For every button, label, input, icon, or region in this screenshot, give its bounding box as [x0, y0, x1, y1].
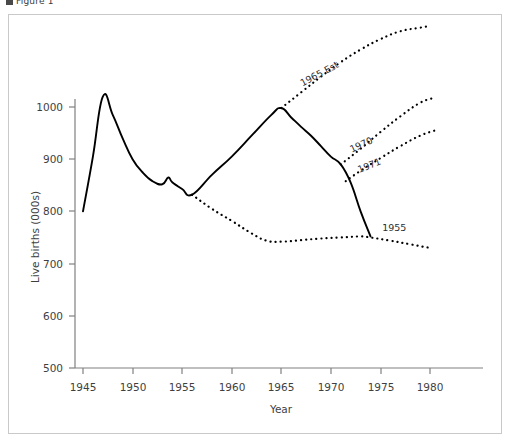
x-axis-title: Year	[269, 403, 293, 415]
y-tick-label: 1000	[36, 101, 63, 113]
x-tick-label: 1960	[219, 381, 246, 393]
figure-frame: 1000 900 800 700 600 500 1945 1950	[8, 14, 502, 434]
series-1965-est	[281, 26, 430, 108]
series-label-1971: 1971	[356, 156, 383, 175]
y-axis-title: Live births (000s)	[29, 191, 41, 283]
series-label-1955: 1955	[382, 222, 406, 233]
y-axis-ticks	[69, 107, 75, 368]
figure-root: Figure 1 1000 900 800 700 600 500	[0, 0, 512, 442]
x-axis-ticks	[83, 368, 430, 374]
y-tick-label: 800	[43, 205, 63, 217]
y-tick-label: 500	[43, 362, 63, 374]
y-tick-label: 600	[43, 310, 63, 322]
x-tick-label: 1965	[268, 381, 295, 393]
x-tick-label: 1945	[70, 381, 97, 393]
series-group	[83, 26, 435, 248]
series-label-1965-est: 1965 Est	[298, 59, 340, 88]
figure-caption-text: Figure 1	[16, 0, 54, 6]
figure-caption: Figure 1	[6, 0, 54, 6]
x-axis-tick-labels: 1945 1950 1955 1960 1965 1970 1975 1980	[70, 381, 444, 393]
x-tick-label: 1950	[120, 381, 147, 393]
x-tick-label: 1955	[169, 381, 196, 393]
x-tick-label: 1980	[417, 381, 444, 393]
x-tick-label: 1970	[318, 381, 345, 393]
series-actual	[83, 94, 371, 236]
x-tick-label: 1975	[368, 381, 395, 393]
series-label-1970: 1970	[348, 134, 375, 154]
document-icon	[6, 0, 13, 5]
series-1970	[341, 98, 435, 165]
y-tick-label: 700	[43, 258, 63, 270]
y-tick-label: 900	[43, 153, 63, 165]
annotation-group: 1965 Est 1970 1971 1955	[298, 59, 406, 233]
line-chart: 1000 900 800 700 600 500 1945 1950	[9, 15, 503, 435]
